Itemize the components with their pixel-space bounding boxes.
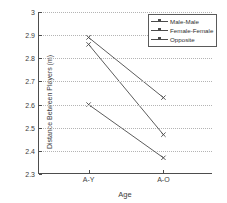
data-point-marker xyxy=(161,132,165,136)
y-axis-tick xyxy=(39,12,42,13)
x-axis-tick xyxy=(89,170,90,173)
legend-item: Female-Female xyxy=(151,26,213,35)
series-line xyxy=(89,105,164,158)
y-axis-tick-label: 2.7 xyxy=(25,78,35,85)
legend-line-marker-icon xyxy=(151,26,168,35)
figure-chart: Distance Between Players (m) 2.32.42.52.… xyxy=(0,0,227,203)
legend-line-marker-icon xyxy=(151,17,168,26)
x-axis-tick xyxy=(163,170,164,173)
gridline xyxy=(39,151,212,152)
legend-item-label: Male-Male xyxy=(168,18,199,25)
gridline xyxy=(39,81,212,82)
y-axis-tick xyxy=(39,58,42,59)
y-axis-tick-label: 2.5 xyxy=(25,124,35,131)
chart-legend: Male-Male Female-Female Opposite xyxy=(148,14,217,47)
gridline xyxy=(39,58,212,59)
x-axis-tick-label: A-Y xyxy=(83,176,95,183)
legend-item-label: Opposite xyxy=(168,36,195,43)
y-axis-tick xyxy=(39,174,42,175)
y-axis-tick-label: 2.8 xyxy=(25,55,35,62)
x-axis-tick-label: A-O xyxy=(157,176,169,183)
gridline xyxy=(39,105,212,106)
y-axis-tick xyxy=(39,151,42,152)
y-axis-tick xyxy=(39,35,42,36)
y-axis-tick-label: 2.6 xyxy=(25,101,35,108)
gridline xyxy=(39,12,212,13)
y-axis-tick-label: 2.4 xyxy=(25,147,35,154)
gridline xyxy=(39,128,212,129)
legend-item: Male-Male xyxy=(151,17,213,26)
y-axis-tick xyxy=(39,81,42,82)
data-point-marker xyxy=(86,42,90,46)
y-axis-tick xyxy=(39,105,42,106)
y-axis-tick-label: 2.9 xyxy=(25,32,35,39)
data-point-marker xyxy=(161,156,165,160)
y-axis-tick-label: 3 xyxy=(31,9,35,16)
legend-item-label: Female-Female xyxy=(168,27,213,34)
data-point-marker xyxy=(161,95,165,99)
y-axis-tick xyxy=(39,128,42,129)
legend-item: Opposite xyxy=(151,35,213,44)
legend-line-marker-icon xyxy=(151,35,168,44)
x-axis-label: Age xyxy=(38,190,212,199)
y-axis-tick-label: 2.3 xyxy=(25,171,35,178)
